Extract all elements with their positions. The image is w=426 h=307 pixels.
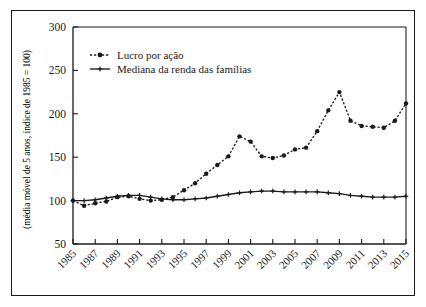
data-point (82, 204, 86, 208)
x-tick-label: 2007 (299, 247, 323, 271)
y-tick-label: 250 (49, 64, 67, 76)
y-tick-marks (73, 27, 78, 244)
data-point (404, 101, 408, 105)
x-tick-labels: 1985198719891991199319951997199920012003… (54, 247, 411, 271)
data-point (248, 190, 253, 195)
data-point (282, 190, 287, 195)
data-point (382, 195, 387, 200)
data-point (204, 196, 209, 201)
y-axis-label-text: (média móvel de 5 anos, índice de 1985 =… (22, 50, 33, 229)
series-line (73, 92, 406, 206)
data-point (259, 189, 264, 194)
data-point (237, 134, 241, 138)
x-tick-label: 1997 (188, 247, 212, 271)
x-tick-label: 1985 (54, 247, 78, 271)
figure-frame: (média móvel de 5 anos, índice de 1985 =… (11, 10, 415, 296)
series-lucro-por-acao (71, 90, 408, 208)
data-point (315, 190, 320, 195)
data-point (93, 197, 98, 202)
data-point (82, 198, 87, 203)
legend-label: Lucro por ação (117, 49, 184, 61)
data-point (226, 192, 231, 197)
chart-legend: Lucro por açãoMediana da renda das famíl… (90, 49, 251, 75)
data-point (71, 198, 76, 203)
x-tick-label: 2001 (232, 247, 256, 271)
data-point (337, 90, 341, 94)
x-tick-label: 1987 (77, 247, 101, 271)
data-point (148, 195, 153, 200)
legend-marker (97, 66, 102, 71)
data-point (237, 190, 242, 195)
data-point (404, 194, 409, 199)
data-point (204, 171, 208, 175)
line-chart: (média móvel de 5 anos, índice de 1985 =… (12, 11, 416, 297)
y-tick-label: 100 (49, 195, 67, 207)
data-point (371, 125, 375, 129)
x-tick-label: 1999 (210, 247, 234, 271)
legend-label: Mediana da renda das famílias (117, 63, 251, 75)
x-tick-label: 2005 (276, 247, 300, 271)
data-point (271, 156, 275, 160)
data-point (348, 119, 352, 123)
data-series-layer (71, 90, 409, 208)
y-tick-label: 300 (49, 21, 67, 33)
data-point (304, 190, 309, 195)
x-tick-label: 2013 (365, 247, 389, 271)
x-tick-label: 1991 (121, 247, 145, 271)
x-tick-label: 2011 (343, 247, 367, 271)
data-point (248, 139, 252, 143)
x-tick-label: 2015 (387, 247, 411, 271)
data-point (215, 194, 220, 199)
x-tick-label: 1995 (165, 247, 189, 271)
data-point (393, 119, 397, 123)
data-point (348, 193, 353, 198)
data-point (326, 190, 331, 195)
data-point (293, 147, 297, 151)
data-point (304, 145, 308, 149)
y-tick-labels: 50100150200250300 (49, 21, 67, 250)
data-point (382, 125, 386, 129)
y-tick-label: 150 (49, 151, 67, 163)
data-point (193, 181, 197, 185)
data-point (282, 153, 286, 157)
data-point (215, 163, 219, 167)
x-tick-label: 1989 (99, 247, 123, 271)
x-tick-label: 1993 (143, 247, 167, 271)
data-point (182, 197, 187, 202)
data-point (226, 154, 230, 158)
data-point (370, 195, 375, 200)
data-point (182, 188, 186, 192)
data-point (315, 129, 319, 133)
data-point (337, 191, 342, 196)
data-point (193, 197, 198, 202)
legend-item: Mediana da renda das famílias (90, 63, 251, 75)
series-mediana-renda-familias (71, 189, 409, 203)
y-axis-label: (média móvel de 5 anos, índice de 1985 =… (22, 50, 33, 229)
data-point (359, 124, 363, 128)
data-point (271, 189, 276, 194)
data-point (359, 194, 364, 199)
y-tick-label: 50 (55, 238, 67, 250)
legend-item: Lucro por ação (90, 49, 184, 61)
data-point (104, 196, 109, 201)
y-tick-label: 200 (49, 108, 67, 120)
data-point (326, 108, 330, 112)
legend-marker (98, 53, 103, 58)
x-tick-label: 2009 (321, 247, 345, 271)
data-point (137, 193, 142, 198)
data-point (293, 190, 298, 195)
x-tick-marks (73, 239, 406, 244)
data-point (393, 195, 398, 200)
x-tick-label: 2003 (254, 247, 278, 271)
data-point (260, 154, 264, 158)
